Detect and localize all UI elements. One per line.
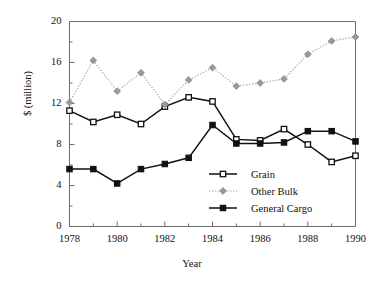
y-tick-label: 0: [40, 220, 62, 231]
legend-label-grain: Grain: [251, 169, 275, 180]
y-tick-label: 16: [40, 56, 62, 67]
x-tick-label: 1990: [336, 233, 376, 244]
y-tick-label: 8: [40, 138, 62, 149]
x-axis-title: Year: [0, 258, 384, 269]
chart-legend: Grain Other Bulk General Cargo: [205, 166, 312, 217]
x-tick-label: 1982: [145, 233, 185, 244]
y-tick-label: 20: [40, 15, 62, 26]
y-tick-label: 4: [40, 179, 62, 190]
legend-label-general-cargo: General Cargo: [251, 203, 312, 214]
series-group: [66, 33, 359, 186]
legend-item-grain: Grain: [205, 166, 312, 182]
series-grain: [67, 95, 358, 165]
legend-label-other-bulk: Other Bulk: [251, 186, 298, 197]
legend-swatch-grain: [205, 167, 241, 181]
y-tick-label: 12: [40, 97, 62, 108]
legend-item-other-bulk: Other Bulk: [205, 183, 312, 199]
series-other-bulk: [66, 33, 359, 107]
legend-swatch-other-bulk: [205, 184, 241, 198]
chart-figure: $ (million) Year 048121620 1978198019821…: [0, 0, 384, 282]
x-tick-label: 1984: [193, 233, 233, 244]
x-tick-label: 1978: [50, 233, 90, 244]
x-tick-label: 1986: [240, 233, 280, 244]
x-tick-label: 1988: [288, 233, 328, 244]
legend-item-general-cargo: General Cargo: [205, 200, 312, 216]
y-axis-title: $ (million): [22, 49, 33, 139]
legend-swatch-general-cargo: [205, 201, 241, 215]
x-tick-label: 1980: [97, 233, 137, 244]
